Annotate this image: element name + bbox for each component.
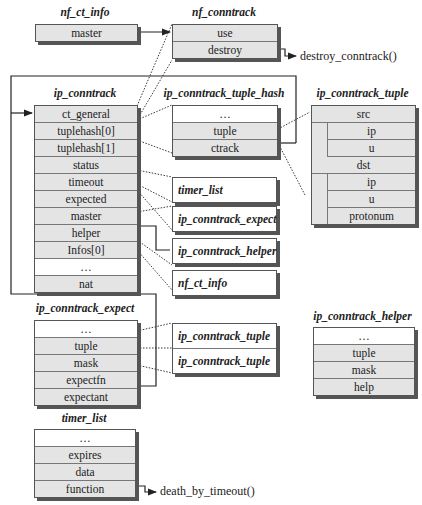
field-destroy: destroy [173,42,277,58]
field-ellipsis: … [35,259,137,276]
field-dst-ip: ip [327,174,415,191]
field-expected: expected [35,191,137,208]
helper-title: ip_conntrack_helper [310,310,415,322]
ref-ip-conntrack-helper: ip_conntrack_helper [172,238,277,264]
nf-conntrack-struct: use destroy [172,24,278,59]
field-ellipsis: … [35,430,135,447]
field-master: master [35,208,137,225]
field-expectfn: expectfn [35,372,137,389]
field-ellipsis: … [314,328,414,345]
field-protonum: protonum [327,208,415,224]
field-expires: expires [35,447,135,464]
ref-timer-list: timer_list [172,177,277,203]
field-src: src [312,106,415,123]
ref-expect-tuples: ip_conntrack_tuple ip_conntrack_tuple [172,323,277,374]
field-src-ip: ip [327,123,415,140]
nf-ct-info-title: nf_ct_info [35,6,135,18]
field-timeout: timeout [35,174,137,191]
field-data: data [35,464,135,481]
nf-ct-info-struct: master [35,24,138,42]
field-master: master [36,25,137,41]
ref-nf-ct-info: nf_ct_info [172,270,277,296]
destroy-conntrack-function: destroy_conntrack() [300,49,397,64]
field-dst-u: u [327,191,415,208]
ip-conntrack-struct: ct_general tuplehash[0] tuplehash[1] sta… [34,105,138,293]
tuple-title: ip_conntrack_tuple [310,87,415,99]
field-tuple: tuple [35,338,137,355]
field-status: status [35,157,137,174]
field-ellipsis: … [173,106,277,123]
field-help: help [314,379,414,395]
field-ellipsis: … [35,321,137,338]
field-ctrack: ctrack [173,140,277,156]
field-expectant: expectant [35,389,137,405]
field-tuplehash-0: tuplehash[0] [35,123,137,140]
field-function: function [35,481,135,497]
helper-struct: … tuple mask help [313,327,415,396]
timer-list-struct: … expires data function [34,429,136,498]
tuple-hash-title: ip_conntrack_tuple_hash [162,87,286,99]
timer-list-title: timer_list [34,412,134,424]
field-infos-0: Infos[0] [35,242,137,259]
field-tuplehash-1: tuplehash[1] [35,140,137,157]
field-helper: helper [35,225,137,242]
field-tuple: tuple [314,345,414,362]
ref-expect-tuple: ip_conntrack_tuple [173,324,276,349]
field-use: use [173,25,277,42]
death-by-timeout-function: death_by_timeout() [160,484,255,499]
tuple-struct: src ip u dst ip u protonum [311,105,416,225]
ip-conntrack-title: ip_conntrack [34,87,136,99]
field-mask: mask [35,355,137,372]
expect-struct: … tuple mask expectfn expectant [34,320,138,406]
nf-conntrack-title: nf_conntrack [172,6,276,18]
ref-expect-mask: ip_conntrack_tuple [173,349,276,373]
field-ct-general: ct_general [35,106,137,123]
field-mask: mask [314,362,414,379]
ref-ip-conntrack-expect: ip_conntrack_expect [172,206,277,232]
tuple-hash-struct: … tuple ctrack [172,105,278,157]
expect-title: ip_conntrack_expect [34,302,136,314]
field-dst: dst [312,157,415,174]
field-tuple: tuple [173,123,277,140]
field-src-u: u [327,140,415,157]
field-nat: nat [35,276,137,292]
